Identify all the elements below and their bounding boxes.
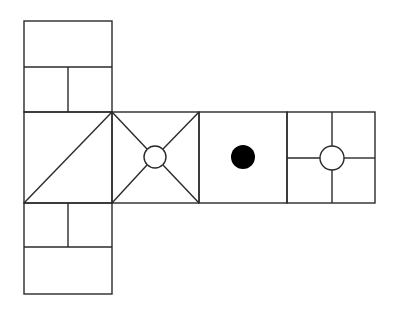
face-center-diag-tr (163, 112, 199, 149)
cube-net-diagram (0, 0, 400, 311)
face-center-diag-br (163, 165, 199, 203)
face-center-diag-bl (112, 165, 147, 203)
filled-dot-icon (231, 145, 255, 169)
open-circle-icon (320, 146, 344, 170)
face-center (112, 112, 199, 203)
face-left-diagonal (24, 112, 112, 203)
face-far-right (287, 112, 375, 203)
face-left (24, 112, 112, 203)
face-right (199, 112, 287, 203)
face-bottom (24, 203, 112, 294)
face-top (24, 21, 112, 112)
face-center-diag-tl (112, 112, 147, 149)
open-circle-icon (144, 146, 166, 168)
